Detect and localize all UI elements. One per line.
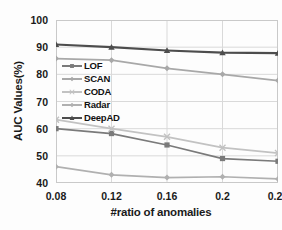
legend-item-scan[interactable]: SCAN [62,72,134,85]
data-point-marker [70,64,74,68]
legend-item-lof[interactable]: LOF [62,59,134,72]
legend-marker-square-icon [69,63,75,69]
x-tick-label: 0.2 [200,190,246,202]
data-point-marker [164,175,170,181]
legend-item-deepad[interactable]: DeepAD [62,111,134,124]
data-point-marker [56,164,59,170]
legend-key-deepad-icon [62,112,82,123]
data-point-marker [70,115,75,119]
legend-label: DeepAD [82,112,120,123]
legend-key-radar-icon [62,99,82,110]
data-point-marker [56,56,59,62]
y-tick-label: 70 [18,97,48,107]
y-tick-label: 50 [18,151,48,161]
data-point-marker [164,142,169,147]
data-point-marker [275,78,278,84]
x-tick-label: 0.12 [89,190,135,202]
data-point-marker [70,102,75,107]
legend-marker-cross-icon [69,89,75,95]
y-tick-label: 90 [18,42,48,52]
x-axis-title: #ratio of anomalies [40,206,282,218]
data-point-marker [70,76,75,81]
legend-item-radar[interactable]: Radar [62,98,134,111]
data-point-marker [220,174,226,180]
y-tick-label: 100 [18,15,48,25]
legend-key-scan-icon [62,73,82,84]
x-tick-label: 0.08 [33,190,79,202]
data-point-marker [164,65,170,71]
legend-label: CODA [82,86,111,97]
data-point-marker [275,176,278,182]
y-tick-label: 80 [18,69,48,79]
data-point-marker [109,131,114,136]
legend-label: SCAN [82,73,110,84]
legend-marker-diamond-icon [69,102,75,108]
data-point-marker [220,71,226,77]
chart-legend: LOFSCANCODARadarDeepAD [62,59,134,124]
data-point-marker [56,126,59,131]
y-tick-label: 60 [18,124,48,134]
data-point-marker [220,156,225,161]
legend-marker-triangle-icon [69,115,75,121]
x-tick-label: 0.16 [144,190,190,202]
data-point-marker [109,172,115,178]
legend-key-lof-icon [62,60,82,71]
data-point-marker [275,159,278,164]
legend-marker-diamond-icon [69,76,75,82]
legend-label: Radar [82,99,110,110]
y-tick-label: 40 [18,178,48,188]
x-tick-label: 0.24 [255,190,282,202]
chart-figure: AUC Values(%) 100908070605040 0.080.120.… [0,0,282,230]
legend-label: LOF [82,60,102,71]
data-point-marker [70,89,75,94]
legend-item-coda[interactable]: CODA [62,85,134,98]
legend-key-coda-icon [62,86,82,97]
